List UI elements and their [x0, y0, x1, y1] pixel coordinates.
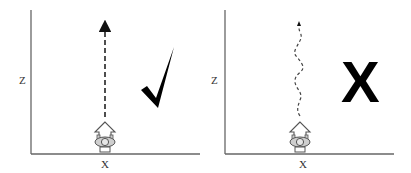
robot-icon [95, 122, 115, 152]
panel-incorrect: Z X X [211, 10, 394, 170]
x-axis-label: X [299, 158, 307, 170]
x-axis-label: X [101, 158, 109, 170]
x-mark-icon: X [341, 49, 380, 114]
z-axis-label: Z [19, 74, 26, 86]
check-mark-icon [141, 47, 174, 108]
path-arrowhead-icon [297, 21, 301, 26]
robot-icon [290, 122, 310, 152]
wavy-dashed-path [295, 24, 303, 116]
panel-correct: Z X [19, 10, 200, 170]
diagram-canvas: Z X Z X X [0, 0, 411, 173]
z-axis-label: Z [211, 74, 218, 86]
